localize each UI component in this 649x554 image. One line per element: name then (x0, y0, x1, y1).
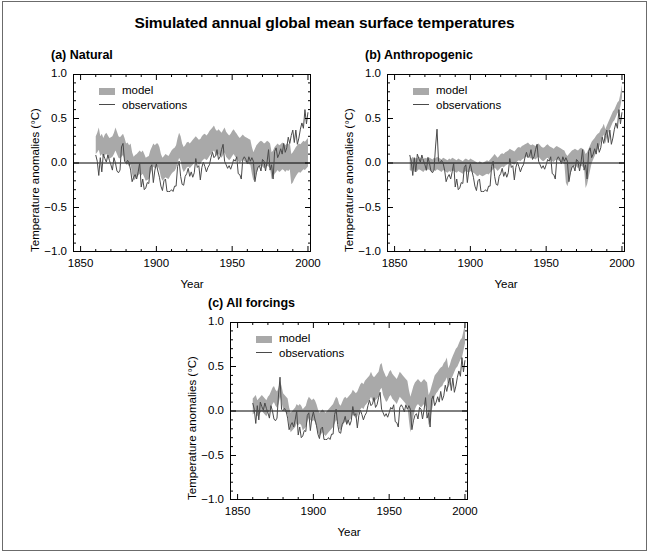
legend-observations-swatch (99, 104, 115, 105)
plot-area-natural (73, 74, 311, 252)
legend-model-label: model (436, 84, 467, 96)
panel-label-all_forcings: (c) All forcings (208, 296, 295, 310)
legend-model-label: model (122, 84, 153, 96)
figure-container: Simulated annual global mean surface tem… (2, 1, 647, 551)
y-tick-label: 0.0 (188, 404, 224, 416)
plot-area-all_forcings (230, 322, 468, 500)
x-tick-label: 1850 (56, 257, 106, 269)
panel-label-natural: (a) Natural (51, 48, 113, 62)
x-tick-label: 1950 (207, 257, 257, 269)
panel-all-forcings: (c) All forcingsTemperature anomalies (°… (178, 294, 478, 550)
x-tick-label: 2000 (440, 505, 490, 517)
x-tick-label: 1950 (364, 505, 414, 517)
y-tick-label: −0.5 (188, 449, 224, 461)
y-tick-label: 0.5 (31, 112, 67, 124)
y-tick-label: −1.0 (31, 245, 67, 257)
legend-observations-label: observations (279, 347, 344, 359)
y-tick-label: 1.0 (345, 67, 381, 79)
x-tick-label: 1900 (288, 505, 338, 517)
legend-observations-swatch (256, 352, 272, 353)
y-tick-label: −1.0 (188, 493, 224, 505)
x-axis-label: Year (230, 526, 468, 538)
y-tick-label: 0.0 (345, 156, 381, 168)
legend-model-label: model (279, 332, 310, 344)
plot-area-anthropogenic (387, 74, 625, 252)
y-tick-label: 0.5 (188, 360, 224, 372)
y-axis-label: Temperature anomalies (°C) (343, 108, 355, 252)
legend-observations-swatch (413, 104, 429, 105)
legend-observations-label: observations (122, 99, 187, 111)
x-axis-label: Year (387, 278, 625, 290)
x-tick-label: 1900 (445, 257, 495, 269)
y-tick-label: 0.0 (31, 156, 67, 168)
panel-label-anthropogenic: (b) Anthropogenic (365, 48, 473, 62)
x-tick-label: 2000 (283, 257, 333, 269)
y-tick-label: 0.5 (345, 112, 381, 124)
y-tick-label: −1.0 (345, 245, 381, 257)
legend-model-swatch (256, 336, 272, 343)
figure-title: Simulated annual global mean surface tem… (3, 14, 646, 32)
panel-anthropogenic: (b) AnthropogenicTemperature anomalies (… (335, 46, 635, 296)
x-tick-label: 1850 (370, 257, 420, 269)
y-tick-label: 1.0 (188, 315, 224, 327)
y-axis-label: Temperature anomalies (°C) (29, 108, 41, 252)
y-tick-label: −0.5 (31, 201, 67, 213)
y-tick-label: 1.0 (31, 67, 67, 79)
x-tick-label: 1850 (213, 505, 263, 517)
legend-model-swatch (99, 88, 115, 95)
x-tick-label: 1900 (131, 257, 181, 269)
y-axis-label: Temperature anomalies (°C) (186, 356, 198, 500)
panel-natural: (a) NaturalTemperature anomalies (°C)Yea… (21, 46, 321, 296)
legend-model-swatch (413, 88, 429, 95)
x-tick-label: 2000 (597, 257, 647, 269)
legend-observations-label: observations (436, 99, 501, 111)
y-tick-label: −0.5 (345, 201, 381, 213)
x-axis-label: Year (73, 278, 311, 290)
x-tick-label: 1950 (521, 257, 571, 269)
